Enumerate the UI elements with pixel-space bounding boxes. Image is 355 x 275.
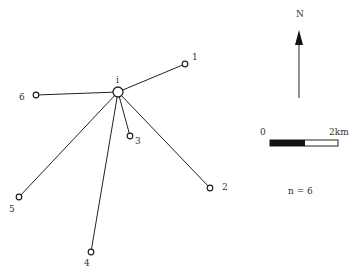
- scale-end-label: 2km: [329, 127, 349, 137]
- edge-2: [118, 92, 210, 188]
- scale-start-label: 0: [260, 127, 266, 137]
- scale-bar-filled: [270, 140, 305, 146]
- edge-1: [118, 64, 185, 92]
- node-label: 5: [9, 204, 15, 214]
- node-label: 3: [135, 136, 141, 146]
- node-1: [182, 61, 188, 67]
- edge-6: [36, 92, 118, 95]
- count-label: n = 6: [288, 186, 313, 196]
- node-4: [88, 249, 94, 255]
- node-3: [127, 133, 133, 139]
- node-label: 2: [222, 182, 228, 192]
- node-6: [33, 92, 39, 98]
- node-5: [16, 194, 22, 200]
- node-label: 6: [19, 92, 25, 102]
- north-label: N: [296, 9, 304, 19]
- network-map: 123456 i N 0 2km n = 6: [0, 0, 355, 275]
- node-label: 4: [84, 258, 90, 268]
- hub-label: i: [116, 75, 119, 85]
- north-arrow-icon: [295, 30, 303, 45]
- hub-node: [113, 87, 123, 97]
- node-label: 1: [192, 52, 198, 62]
- node-2: [207, 185, 213, 191]
